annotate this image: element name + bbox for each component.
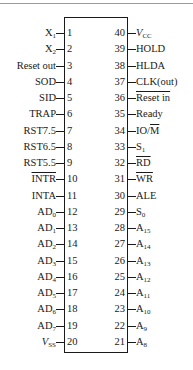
pin-label: A15 — [136, 221, 151, 235]
pin-lead-line — [56, 49, 64, 50]
pin-number: 29 — [115, 205, 126, 219]
pin-lead-line — [56, 163, 64, 164]
pin-label: AD6 — [37, 302, 56, 316]
pin-lead-line — [128, 277, 136, 278]
top-rule-line — [0, 3, 193, 4]
pin-lead-line — [56, 66, 64, 67]
pin-18: 18AD6 — [64, 302, 96, 316]
pin-lead-line — [56, 196, 64, 197]
pin-lead-line — [128, 342, 136, 343]
pin-label: AD4 — [37, 270, 56, 284]
pin-26: 26A13 — [96, 254, 128, 268]
pin-14: 14AD2 — [64, 237, 96, 251]
pin-lead-line — [56, 179, 64, 180]
pin-label: S0 — [136, 205, 145, 219]
pin-label: AD0 — [37, 205, 56, 219]
pin-label: AD3 — [37, 254, 56, 268]
pin-32: 32RD — [96, 156, 128, 170]
pin-label: ALE — [136, 189, 156, 203]
pin-number: 40 — [115, 26, 126, 40]
pin-number: 13 — [67, 221, 78, 235]
pin-16: 16AD4 — [64, 270, 96, 284]
pin-number: 8 — [67, 140, 72, 154]
pin-lead-line — [56, 33, 64, 34]
pin-number: 15 — [67, 254, 78, 268]
pin-label: RST6.5 — [24, 140, 56, 154]
pin-lead-line — [56, 147, 64, 148]
pin-label: AD7 — [37, 319, 56, 333]
pin-6: 6TRAP — [64, 107, 96, 121]
pin-27: 27A14 — [96, 237, 128, 251]
pin-lead-line — [56, 309, 64, 310]
pin-label: A8 — [136, 335, 147, 349]
pin-label: Reset out — [17, 59, 56, 73]
pin-lead-line — [56, 244, 64, 245]
pin-1: 1X1 — [64, 26, 96, 40]
pin-label: SID — [39, 91, 56, 105]
pin-number: 7 — [67, 124, 72, 138]
pin-label: A9 — [136, 319, 147, 333]
pin-number: 11 — [67, 189, 77, 203]
pin-lead-line — [128, 33, 136, 34]
pin-30: 30ALE — [96, 189, 128, 203]
pin-number: 4 — [67, 75, 72, 89]
pin-lead-line — [128, 212, 136, 213]
pin-lead-line — [128, 244, 136, 245]
pin-lead-line — [56, 228, 64, 229]
pin-label: A13 — [136, 254, 151, 268]
pin-38: 38HLDA — [96, 59, 128, 73]
pin-number: 19 — [67, 319, 78, 333]
pin-number: 25 — [115, 270, 126, 284]
pin-37: 37CLK(out) — [96, 75, 128, 89]
pin-number: 37 — [115, 75, 126, 89]
pin-4: 4SOD — [64, 75, 96, 89]
pin-12: 12AD0 — [64, 205, 96, 219]
pin-lead-line — [56, 131, 64, 132]
pin-number: 6 — [67, 107, 72, 121]
pin-number: 5 — [67, 91, 72, 105]
pin-29: 29S0 — [96, 205, 128, 219]
pin-7: 7RST7.5 — [64, 124, 96, 138]
pin-label: AD1 — [37, 221, 56, 235]
pin-label: HOLD — [136, 42, 165, 56]
pin-lead-line — [56, 114, 64, 115]
pin-number: 33 — [115, 140, 126, 154]
pin-25: 25A12 — [96, 270, 128, 284]
pin-label: AD5 — [37, 286, 56, 300]
pin-number: 16 — [67, 270, 78, 284]
pin-36: 36Reset in — [96, 91, 128, 105]
pin-label: Ready — [136, 107, 163, 121]
pin-lead-line — [128, 131, 136, 132]
pin-lead-line — [128, 147, 136, 148]
pin-number: 1 — [67, 26, 72, 40]
pin-label: A11 — [136, 286, 150, 300]
pin-number: 2 — [67, 42, 72, 56]
pin-number: 12 — [67, 205, 78, 219]
pin-lead-line — [128, 309, 136, 310]
pin-lead-line — [56, 212, 64, 213]
pin-number: 10 — [67, 172, 78, 186]
pin-21: 21A8 — [96, 335, 128, 349]
pin-label: VSS — [42, 335, 56, 349]
pin-number: 34 — [115, 124, 126, 138]
pin-lead-line — [56, 277, 64, 278]
pin-33: 33S1 — [96, 140, 128, 154]
pin-number: 22 — [115, 319, 126, 333]
pin-lead-line — [128, 293, 136, 294]
pin-number: 23 — [115, 302, 126, 316]
pin-lead-line — [56, 293, 64, 294]
pin-number: 21 — [115, 335, 126, 349]
pin-lead-line — [128, 98, 136, 99]
pin-23: 23A10 — [96, 302, 128, 316]
pin-label: VCC — [136, 26, 152, 40]
pin-lead-line — [128, 49, 136, 50]
pin-number: 30 — [115, 189, 126, 203]
pin-label: AD2 — [37, 237, 56, 251]
pin-13: 13AD1 — [64, 221, 96, 235]
pin-lead-line — [128, 326, 136, 327]
pin-label: INTA — [32, 189, 56, 203]
pin-lead-line — [128, 261, 136, 262]
pin-5: 5SID — [64, 91, 96, 105]
pin-lead-line — [128, 163, 136, 164]
pin-28: 28A15 — [96, 221, 128, 235]
